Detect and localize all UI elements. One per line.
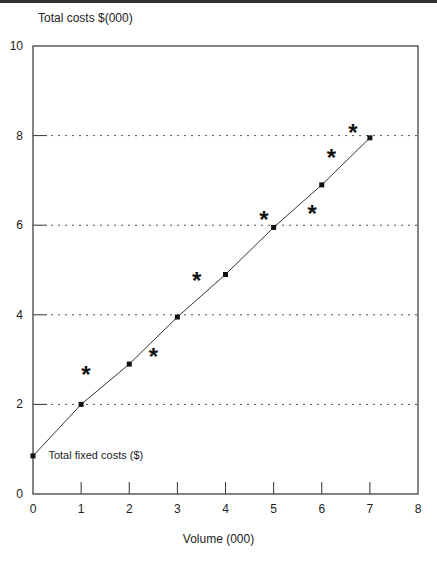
y-tick-label: 8	[16, 129, 23, 143]
chart-plot: 0246810012345678*******Total fixed costs…	[0, 0, 437, 562]
y-tick-label: 2	[16, 397, 23, 411]
x-tick-label: 2	[126, 502, 133, 516]
x-tick-label: 6	[318, 502, 325, 516]
square-marker	[127, 362, 132, 367]
x-tick-label: 7	[367, 502, 374, 516]
y-tick-label: 6	[16, 218, 23, 232]
x-tick-label: 4	[222, 502, 229, 516]
asterisk-marker: *	[192, 267, 202, 294]
y-tick-label: 10	[10, 39, 24, 53]
asterisk-marker: *	[81, 361, 91, 388]
square-marker	[79, 402, 84, 407]
y-tick-label: 0	[16, 487, 23, 501]
y-tick-label: 4	[16, 308, 23, 322]
x-tick-label: 0	[30, 502, 37, 516]
asterisk-marker: *	[307, 200, 317, 227]
x-tick-label: 8	[415, 502, 422, 516]
asterisk-marker: *	[348, 119, 358, 146]
asterisk-marker: *	[259, 206, 269, 233]
plot-frame	[33, 46, 418, 494]
square-marker	[175, 315, 180, 320]
annotation-fixed-costs: Total fixed costs ($)	[48, 449, 143, 461]
asterisk-marker: *	[149, 343, 159, 370]
square-marker	[31, 453, 36, 458]
x-tick-label: 3	[174, 502, 181, 516]
square-marker	[367, 135, 372, 140]
x-tick-label: 5	[270, 502, 277, 516]
square-marker	[319, 182, 324, 187]
square-marker	[223, 272, 228, 277]
asterisk-marker: *	[327, 144, 337, 171]
x-tick-label: 1	[78, 502, 85, 516]
square-marker	[271, 225, 276, 230]
